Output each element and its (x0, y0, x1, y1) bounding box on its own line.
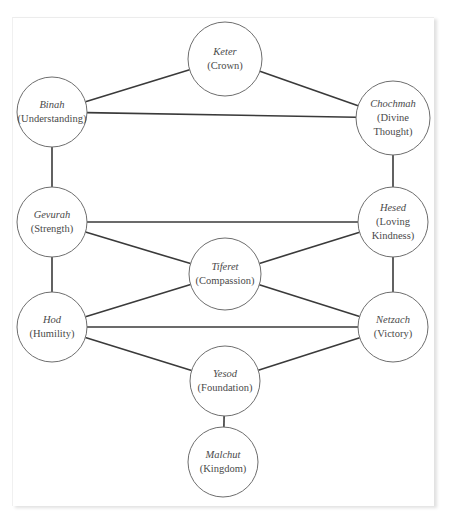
node-name: Malchut (183, 448, 263, 462)
node-meaning: (Victory) (353, 327, 433, 341)
edge-hesed-tiferet (259, 232, 359, 263)
node-meaning: (Humility) (12, 327, 92, 341)
node-name: Yesod (185, 367, 265, 381)
node-meaning: (Compassion) (185, 274, 265, 288)
edge-netzach-yesod (258, 338, 359, 371)
node-meaning: Thought) (353, 125, 433, 139)
node-label-yesod: Yesod(Foundation) (185, 367, 265, 395)
node-label-chochmah: Chochmah(DivineThought) (353, 97, 433, 139)
node-meaning: (Kingdom) (183, 462, 263, 476)
node-name: Netzach (353, 313, 433, 327)
sefirot-diagram (0, 0, 450, 515)
edge-binah-chochmah (87, 113, 356, 118)
node-meaning: (Loving (353, 215, 433, 229)
node-name: Tiferet (185, 260, 265, 274)
node-label-keter: Keter(Crown) (185, 45, 265, 73)
node-meaning: Kindness) (353, 229, 433, 243)
node-label-gevurah: Gevurah(Strength) (12, 208, 92, 236)
node-name: Chochmah (353, 97, 433, 111)
node-meaning: (Understanding) (12, 112, 92, 126)
edge-hod-yesod (85, 337, 191, 370)
node-meaning: (Crown) (185, 59, 265, 73)
node-name: Gevurah (12, 208, 92, 222)
node-name: Hod (12, 313, 92, 327)
node-label-tiferet: Tiferet(Compassion) (185, 260, 265, 288)
node-label-netzach: Netzach(Victory) (353, 313, 433, 341)
node-name: Keter (185, 45, 265, 59)
node-label-hod: Hod(Humility) (12, 313, 92, 341)
edge-binah-keter (86, 70, 190, 102)
node-label-binah: Binah(Understanding) (12, 98, 92, 126)
node-meaning: (Strength) (12, 222, 92, 236)
edge-keter-chochmah (260, 71, 358, 105)
node-name: Binah (12, 98, 92, 112)
edge-netzach-tiferet (259, 285, 359, 317)
node-meaning: (Divine (353, 111, 433, 125)
edge-gevurah-tiferet (86, 232, 191, 264)
node-label-hesed: Hesed(LovingKindness) (353, 201, 433, 243)
edge-hod-tiferet (86, 285, 191, 317)
node-label-malchut: Malchut(Kingdom) (183, 448, 263, 476)
node-name: Hesed (353, 201, 433, 215)
node-meaning: (Foundation) (185, 381, 265, 395)
